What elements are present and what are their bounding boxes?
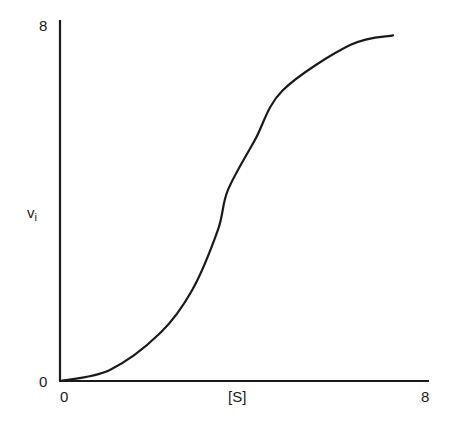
y-tick-max: 8 — [39, 18, 47, 33]
x-tick-max: 8 — [421, 389, 429, 404]
y-tick-min: 0 — [39, 374, 47, 389]
chart-canvas — [0, 0, 456, 424]
y-axis-label: vi — [27, 205, 37, 223]
x-axis-label: [S] — [228, 389, 246, 404]
data-curve — [60, 35, 393, 381]
x-tick-min: 0 — [60, 389, 68, 404]
y-axis-label-main: v — [27, 204, 35, 221]
y-axis-label-subscript: i — [35, 211, 37, 223]
